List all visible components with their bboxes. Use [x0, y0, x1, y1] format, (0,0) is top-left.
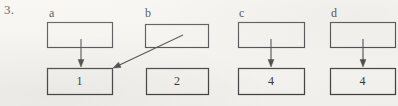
bottom-box-value-c: 4	[238, 75, 304, 87]
top-box-b	[146, 25, 209, 48]
arrow-head-b	[113, 62, 121, 68]
top-box-a	[48, 23, 113, 48]
item-number: 3.	[4, 3, 14, 17]
arrow-shaft-b	[118, 35, 183, 66]
column-label-a: a	[49, 7, 54, 19]
arrow-head-c	[268, 60, 274, 68]
figure-container: 3. a1b2c4d4	[0, 0, 398, 106]
diagram-vector-layer	[0, 0, 398, 106]
arrow-head-d	[360, 60, 366, 68]
column-label-b: b	[145, 7, 151, 19]
bottom-box-value-b: 2	[146, 75, 208, 87]
bottom-box-value-a: 1	[47, 75, 112, 87]
column-label-c: c	[239, 7, 244, 19]
column-label-d: d	[331, 7, 337, 19]
arrow-head-a	[78, 60, 84, 68]
bottom-box-value-d: 4	[330, 75, 395, 87]
